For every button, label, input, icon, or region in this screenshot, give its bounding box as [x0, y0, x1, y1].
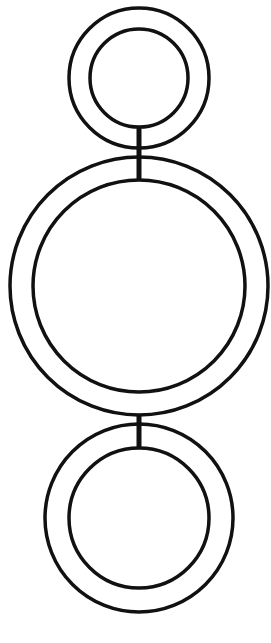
inner-ring-top: [90, 29, 188, 127]
inner-ring-bottom: [69, 448, 209, 588]
double-ring-diagram: [0, 0, 271, 643]
inner-ring-middle: [33, 180, 245, 392]
